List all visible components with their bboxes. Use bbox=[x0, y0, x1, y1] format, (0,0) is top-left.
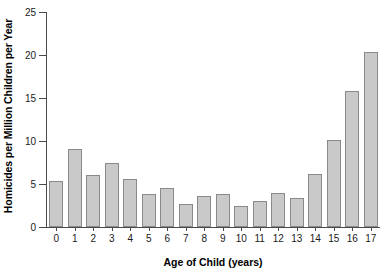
bar-chart: Homicides per Million Children per Year … bbox=[0, 0, 386, 279]
x-tick-14: 14 bbox=[306, 228, 325, 250]
bar bbox=[345, 91, 359, 227]
x-tick-label: 3 bbox=[103, 233, 122, 244]
x-tick-label: 11 bbox=[251, 233, 270, 244]
bar bbox=[179, 204, 193, 227]
x-tick-mark bbox=[223, 228, 224, 231]
x-tick-label: 9 bbox=[214, 233, 233, 244]
y-tick-mark bbox=[39, 227, 46, 228]
x-tick-label: 17 bbox=[362, 233, 381, 244]
bar bbox=[123, 179, 137, 227]
x-tick-label: 13 bbox=[288, 233, 307, 244]
y-tick-mark bbox=[39, 98, 46, 99]
x-tick-label: 1 bbox=[66, 233, 85, 244]
x-tick-2: 2 bbox=[84, 228, 103, 250]
x-tick-mark bbox=[278, 228, 279, 231]
x-axis-ticks: 01234567891011121314151617 bbox=[47, 228, 380, 250]
bar bbox=[327, 140, 341, 227]
x-tick-mark bbox=[241, 228, 242, 231]
y-axis-ticks: 0510152025 bbox=[0, 0, 46, 279]
x-tick-mark bbox=[352, 228, 353, 231]
x-tick-11: 11 bbox=[251, 228, 270, 250]
x-tick-label: 8 bbox=[195, 233, 214, 244]
bar bbox=[68, 149, 82, 227]
y-tick-mark bbox=[39, 12, 46, 13]
x-tick-3: 3 bbox=[103, 228, 122, 250]
x-tick-4: 4 bbox=[121, 228, 140, 250]
bar bbox=[197, 196, 211, 227]
bar bbox=[160, 188, 174, 227]
x-tick-label: 15 bbox=[325, 233, 344, 244]
x-tick-15: 15 bbox=[325, 228, 344, 250]
x-tick-mark bbox=[334, 228, 335, 231]
y-tick-label: 10 bbox=[0, 136, 36, 147]
bar bbox=[216, 194, 230, 227]
x-tick-mark bbox=[371, 228, 372, 231]
x-tick-label: 2 bbox=[84, 233, 103, 244]
x-tick-0: 0 bbox=[47, 228, 66, 250]
x-axis-title: Age of Child (years) bbox=[46, 256, 380, 268]
x-tick-mark bbox=[204, 228, 205, 231]
x-tick-mark bbox=[315, 228, 316, 231]
bar bbox=[253, 201, 267, 227]
bar bbox=[142, 194, 156, 227]
bar bbox=[271, 193, 285, 227]
x-tick-12: 12 bbox=[269, 228, 288, 250]
x-tick-9: 9 bbox=[214, 228, 233, 250]
x-tick-mark bbox=[75, 228, 76, 231]
y-tick-label: 0 bbox=[0, 222, 36, 233]
bar bbox=[86, 175, 100, 227]
y-tick-mark bbox=[39, 184, 46, 185]
x-tick-mark bbox=[167, 228, 168, 231]
x-tick-mark bbox=[93, 228, 94, 231]
y-tick-label: 5 bbox=[0, 179, 36, 190]
bar bbox=[234, 206, 248, 227]
bar bbox=[308, 174, 322, 227]
x-tick-mark bbox=[186, 228, 187, 231]
x-tick-label: 16 bbox=[343, 233, 362, 244]
x-tick-label: 5 bbox=[140, 233, 159, 244]
x-tick-17: 17 bbox=[362, 228, 381, 250]
y-tick-mark bbox=[39, 55, 46, 56]
x-tick-label: 10 bbox=[232, 233, 251, 244]
bar bbox=[105, 163, 119, 227]
x-tick-label: 6 bbox=[158, 233, 177, 244]
bar bbox=[364, 52, 378, 227]
bar bbox=[290, 198, 304, 227]
x-tick-8: 8 bbox=[195, 228, 214, 250]
x-tick-16: 16 bbox=[343, 228, 362, 250]
x-tick-5: 5 bbox=[140, 228, 159, 250]
x-tick-label: 4 bbox=[121, 233, 140, 244]
y-tick-label: 15 bbox=[0, 93, 36, 104]
x-tick-label: 0 bbox=[47, 233, 66, 244]
bar-series bbox=[47, 12, 380, 227]
x-tick-mark bbox=[297, 228, 298, 231]
x-tick-10: 10 bbox=[232, 228, 251, 250]
y-tick-label: 25 bbox=[0, 7, 36, 18]
bar bbox=[49, 181, 63, 227]
x-tick-mark bbox=[56, 228, 57, 231]
y-tick-label: 20 bbox=[0, 50, 36, 61]
x-tick-mark bbox=[130, 228, 131, 231]
x-tick-mark bbox=[112, 228, 113, 231]
x-tick-1: 1 bbox=[66, 228, 85, 250]
x-tick-label: 12 bbox=[269, 233, 288, 244]
x-tick-label: 7 bbox=[177, 233, 196, 244]
x-tick-7: 7 bbox=[177, 228, 196, 250]
y-tick-mark bbox=[39, 141, 46, 142]
x-tick-6: 6 bbox=[158, 228, 177, 250]
x-tick-mark bbox=[149, 228, 150, 231]
x-tick-mark bbox=[260, 228, 261, 231]
x-tick-label: 14 bbox=[306, 233, 325, 244]
x-tick-13: 13 bbox=[288, 228, 307, 250]
